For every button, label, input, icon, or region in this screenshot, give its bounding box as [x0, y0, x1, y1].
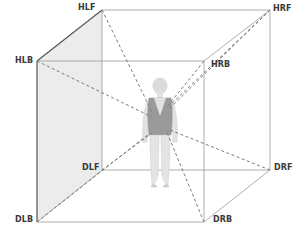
corner-label-HLF: HLF [78, 4, 96, 12]
figure-head [153, 78, 167, 94]
edge-HRF-HRB [204, 10, 270, 61]
sightline-HRB [166, 61, 204, 108]
cube-svg [0, 0, 304, 231]
standing-figure [143, 78, 178, 188]
sightline-DRB [166, 130, 204, 222]
corner-label-HRF: HRF [273, 5, 292, 13]
sightline-HRF-2 [170, 10, 270, 105]
figure-left-leg [150, 135, 159, 185]
corner-label-HLB: HLB [15, 57, 33, 65]
corner-label-DLB: DLB [15, 216, 33, 224]
corner-label-DLF: DLF [82, 164, 100, 172]
left-face-shading [37, 10, 102, 222]
corner-label-DRF: DRF [274, 164, 293, 172]
sightline-DRF [170, 130, 270, 170]
corner-label-HRB: HRB [211, 61, 230, 69]
perspective-cube-diagram: HLF HRF HLB HRB DLF DRF DLB DRB [0, 0, 304, 231]
corner-label-DRB: DRB [213, 216, 232, 224]
figure-right-leg [161, 135, 170, 185]
